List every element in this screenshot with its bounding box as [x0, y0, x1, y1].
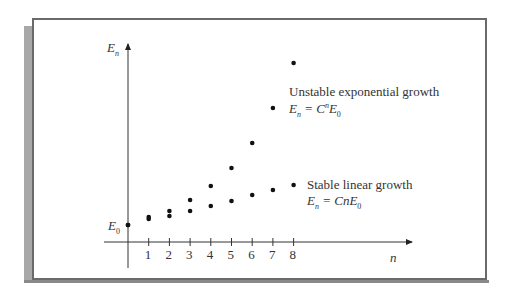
- data-point: [250, 193, 255, 198]
- data-point: [229, 199, 234, 204]
- x-tick-label: 2: [165, 247, 172, 263]
- x-tick-label: 6: [248, 247, 255, 263]
- data-point: [167, 214, 172, 219]
- lin-series-formula: En = CnE0: [307, 193, 361, 211]
- lin-series-title: Stable linear growth: [307, 177, 412, 193]
- x-tick-label: 7: [269, 247, 276, 263]
- data-point: [167, 209, 172, 214]
- data-point: [271, 188, 276, 193]
- data-point: [250, 141, 255, 146]
- data-point: [126, 223, 131, 228]
- data-point: [229, 166, 234, 171]
- plot-area: [0, 0, 512, 298]
- x-tick-label: 5: [228, 247, 235, 263]
- data-point: [291, 61, 296, 66]
- x-tick-label: 3: [186, 247, 193, 263]
- data-point: [291, 183, 296, 188]
- exp-series-formula: En = CnE0: [289, 101, 341, 119]
- data-point: [271, 106, 276, 111]
- x-tick-label: 8: [290, 247, 297, 263]
- data-point: [146, 217, 151, 222]
- data-points: [126, 61, 296, 228]
- y-axis-label: En: [107, 40, 119, 58]
- data-point: [209, 204, 214, 209]
- data-point: [188, 198, 193, 203]
- exp-series-title: Unstable exponential growth: [289, 84, 439, 100]
- origin-label: E0: [108, 218, 120, 236]
- data-point: [188, 209, 193, 214]
- data-point: [209, 184, 214, 189]
- x-axis-label: n: [390, 250, 397, 266]
- x-tick-label: 1: [145, 247, 152, 263]
- x-tick-label: 4: [207, 247, 214, 263]
